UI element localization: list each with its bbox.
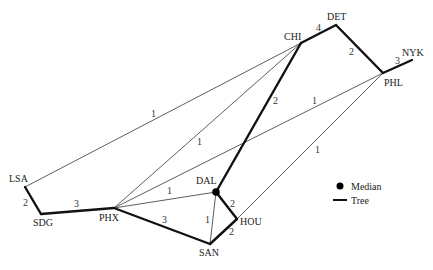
city-label-chi: CHI (284, 31, 301, 42)
edge-weight-san-dal: 1 (205, 214, 210, 225)
edge-weight-chi-dal: 2 (273, 95, 278, 106)
edge-weight-hou-san: 2 (229, 226, 234, 237)
city-label-nyk: NYK (402, 47, 424, 58)
median-legend-label: Median (351, 181, 382, 192)
edge-weight-lsa-chi: 1 (151, 108, 156, 119)
edge-weight-phx-chi: 1 (197, 136, 202, 147)
edge-san-dal (210, 192, 216, 244)
city-label-det: DET (327, 11, 346, 22)
median-legend-icon (337, 183, 344, 190)
city-label-phx: PHX (99, 212, 120, 223)
network-diagram: 423222332111111 CHIDETNYKPHLLSASDGPHXDAL… (0, 0, 433, 270)
city-label-phl: PHL (384, 77, 403, 88)
city-label-sdg: SDG (33, 217, 53, 228)
edge-weight-phx-sdg: 3 (74, 198, 79, 209)
city-label-san: SAN (199, 247, 219, 258)
edge-weight-chi-det: 4 (316, 22, 321, 33)
edge-weight-phl-nyk: 3 (395, 55, 400, 66)
edge-weight-san-phx: 3 (162, 214, 167, 225)
edge-weight-dal-hou: 2 (230, 198, 235, 209)
edge-weights-layer: 423222332111111 (23, 22, 400, 237)
city-labels-layer: CHIDETNYKPHLLSASDGPHXDALHOUSAN (9, 11, 424, 258)
city-label-lsa: LSA (9, 173, 29, 184)
legend: Median Tree (333, 181, 382, 206)
edges-layer (25, 25, 412, 244)
edge-weight-phx-phl: 1 (312, 95, 317, 106)
tree-legend-label: Tree (351, 195, 370, 206)
city-label-dal: DAL (196, 175, 217, 186)
tree-edge-det-phl (336, 25, 383, 73)
edge-weight-hou-phl: 1 (315, 144, 320, 155)
city-label-hou: HOU (240, 216, 262, 227)
edge-weight-phx-dal: 1 (167, 185, 172, 196)
edge-weight-sdg-lsa: 2 (23, 197, 28, 208)
edge-weight-det-phl: 2 (349, 46, 354, 57)
median-dot-icon (212, 188, 220, 196)
median-marker-layer (212, 188, 220, 196)
